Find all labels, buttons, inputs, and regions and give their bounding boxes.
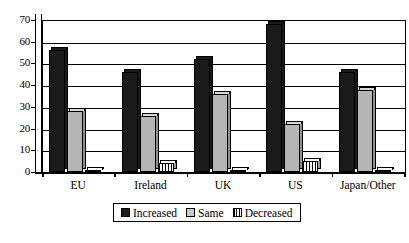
bar-top-cap — [341, 69, 357, 72]
bar-decreased-us — [302, 161, 318, 172]
bar-top-cap — [51, 47, 67, 50]
bar-group — [114, 20, 186, 172]
bar-side-face — [83, 108, 86, 169]
legend-item-increased[interactable]: Increased — [121, 207, 177, 219]
y-axis-tick-label: 50 — [4, 57, 30, 68]
bar-face — [212, 94, 228, 172]
chart-legend: IncreasedSameDecreased — [113, 203, 301, 222]
axis-wall — [35, 14, 42, 173]
bar-same-japan-other — [357, 90, 373, 173]
bar-face — [158, 163, 174, 172]
x-axis-tick-mark — [114, 172, 116, 177]
x-axis-tick-mark — [332, 172, 334, 177]
bar-top-cap — [87, 167, 103, 170]
bar-group — [332, 20, 404, 172]
x-axis-tick-mark — [187, 172, 189, 177]
bar-top-cap — [196, 56, 212, 59]
bar-top-cap — [268, 21, 284, 24]
legend-label: Increased — [133, 207, 177, 219]
x-axis-labels: EUIrelandUKUSJapan/Other — [42, 179, 404, 195]
bar-top-cap — [124, 69, 140, 72]
bar-face — [339, 72, 355, 172]
y-axis-tick-label: 60 — [4, 36, 30, 47]
bar-increased-japan-other — [339, 72, 355, 172]
bar-same-ireland — [140, 116, 156, 172]
legend-swatch-same-icon — [186, 208, 195, 217]
bar-top-cap — [377, 167, 393, 170]
bar-increased-ireland — [122, 72, 138, 172]
bar-increased-us — [266, 24, 282, 172]
y-axis-tick-label: 70 — [4, 14, 30, 25]
bar-face — [67, 111, 83, 172]
bar-top-cap — [142, 113, 158, 116]
bar-decreased-ireland — [158, 163, 174, 172]
bar-face — [266, 24, 282, 172]
bar-face — [140, 116, 156, 172]
x-axis-tick-label: Ireland — [114, 179, 186, 192]
bars-layer — [42, 20, 404, 172]
legend-label: Same — [198, 207, 224, 219]
bar-top-cap — [69, 108, 85, 111]
legend-swatch-increased-icon — [121, 208, 130, 217]
bar-top-cap — [232, 167, 248, 170]
x-axis-tick-label: US — [259, 179, 331, 192]
y-axis-tick-label: 10 — [4, 144, 30, 155]
bar-top-cap — [214, 91, 230, 94]
bar-face — [122, 72, 138, 172]
y-axis: 010203040506070 — [4, 12, 30, 172]
y-axis-tick-label: 40 — [4, 79, 30, 90]
bar-face — [302, 161, 318, 172]
x-axis-tick-label: EU — [42, 179, 114, 192]
y-axis-tick-label: 0 — [4, 166, 30, 177]
bar-increased-eu — [49, 50, 65, 172]
x-axis-tick-label: UK — [187, 179, 259, 192]
bar-face — [357, 90, 373, 173]
bar-face — [284, 124, 300, 172]
bar-group — [187, 20, 259, 172]
bar-group — [259, 20, 331, 172]
y-axis-tick-label: 30 — [4, 101, 30, 112]
bar-side-face — [228, 91, 231, 169]
x-axis-ticks — [42, 172, 404, 177]
x-axis-tick-label: Japan/Other — [332, 179, 404, 192]
bar-chart: 010203040506070 EUIrelandUKUSJapan/Other… — [0, 0, 409, 243]
legend-label: Decreased — [245, 207, 293, 219]
bar-group — [42, 20, 114, 172]
bar-top-cap — [304, 158, 320, 161]
x-axis-tick-mark — [259, 172, 261, 177]
bar-side-face — [156, 113, 159, 169]
bar-same-us — [284, 124, 300, 172]
bar-increased-uk — [194, 59, 210, 172]
bar-face — [49, 50, 65, 172]
bar-top-cap — [286, 121, 302, 124]
x-axis-tick-mark — [42, 172, 44, 177]
bar-face — [194, 59, 210, 172]
legend-swatch-decreased-icon — [233, 208, 242, 217]
bar-top-cap — [160, 160, 176, 163]
legend-item-same[interactable]: Same — [186, 207, 224, 219]
y-axis-tick-label: 20 — [4, 123, 30, 134]
bar-same-uk — [212, 94, 228, 172]
bar-same-eu — [67, 111, 83, 172]
legend-item-decreased[interactable]: Decreased — [233, 207, 293, 219]
bar-side-face — [373, 87, 376, 170]
bar-top-cap — [359, 87, 375, 90]
x-axis-tick-mark — [404, 172, 406, 177]
